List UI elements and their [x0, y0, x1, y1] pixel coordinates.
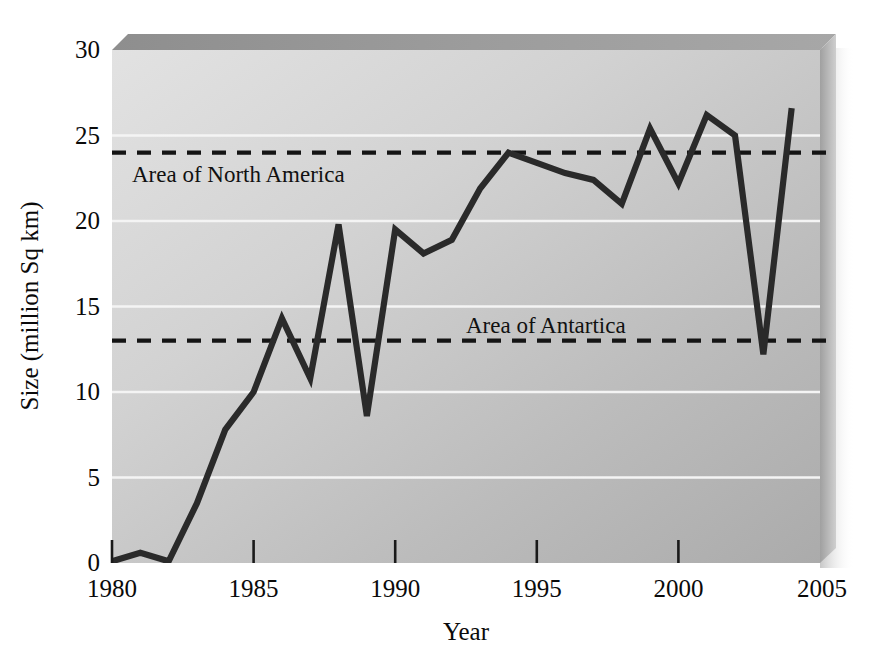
- panel-right-side: [820, 34, 836, 563]
- x-axis-title: Year: [443, 618, 490, 645]
- y-axis-title: Size (million Sq km): [16, 201, 44, 410]
- ytick-label-10: 10: [75, 378, 100, 405]
- reference-label-antartica: Area of Antartica: [466, 313, 626, 338]
- xtick-label-1990: 1990: [370, 575, 420, 602]
- ytick-label-30: 30: [75, 36, 100, 63]
- reference-label-north-america: Area of North America: [132, 162, 345, 187]
- x-axis-tick-labels: 1980 1985 1990 1995 2000 2005: [87, 575, 847, 602]
- ytick-label-20: 20: [75, 207, 100, 234]
- ytick-label-0: 0: [88, 549, 101, 576]
- ozone-hole-line-chart: Area of North America Area of Antartica …: [0, 0, 884, 656]
- ytick-label-15: 15: [75, 293, 100, 320]
- ytick-label-25: 25: [75, 122, 100, 149]
- panel-top-bevel: [112, 34, 836, 50]
- xtick-label-2005: 2005: [797, 575, 847, 602]
- y-axis-tick-labels: 0 5 10 15 20 25 30: [75, 36, 100, 576]
- xtick-label-1980: 1980: [87, 575, 137, 602]
- xtick-label-2000: 2000: [653, 575, 703, 602]
- xtick-label-1995: 1995: [512, 575, 562, 602]
- chart-figure: Area of North America Area of Antartica …: [0, 0, 884, 656]
- ytick-label-5: 5: [88, 464, 101, 491]
- xtick-label-1985: 1985: [229, 575, 279, 602]
